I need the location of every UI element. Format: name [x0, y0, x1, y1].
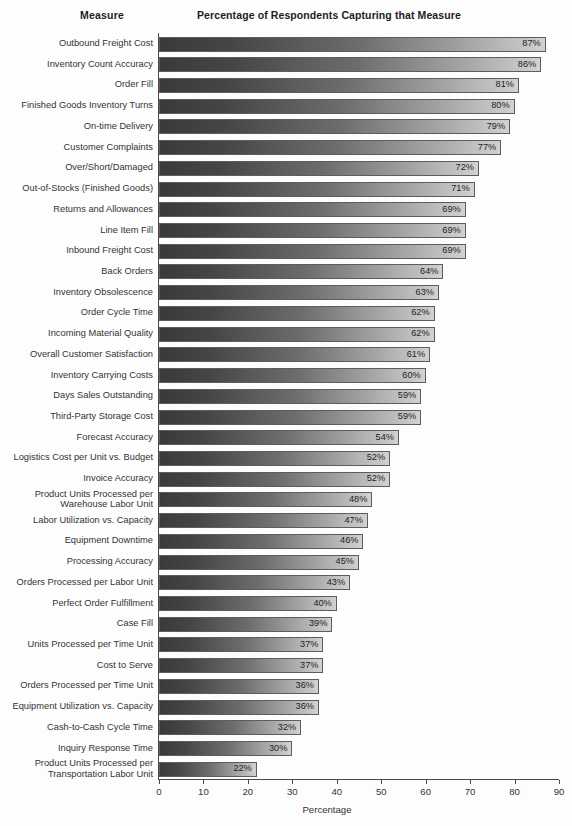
table-row: Cash-to-Cash Cycle Time32%: [0, 717, 572, 739]
x-tick-mark: [559, 780, 560, 784]
x-tick-mark: [381, 780, 382, 784]
table-row: Customer Complaints77%: [0, 137, 572, 159]
chart-page: Measure Percentage of Respondents Captur…: [0, 0, 572, 826]
bar-value-label: 37%: [300, 661, 318, 670]
bar-wrapper: 37%: [159, 637, 323, 652]
table-row: Forecast Accuracy54%: [0, 427, 572, 449]
table-row: Logistics Cost per Unit vs. Budget52%: [0, 447, 572, 469]
bar-value-label: 80%: [491, 102, 509, 111]
table-row: Inquiry Response Time30%: [0, 738, 572, 760]
bar: 81%: [159, 78, 519, 93]
bar-value-label: 52%: [367, 475, 385, 484]
x-tick-label: 80: [509, 786, 520, 797]
bar-value-label: 69%: [442, 226, 460, 235]
bar-wrapper: 52%: [159, 451, 390, 466]
bar-category-label: Incoming Material Quality: [0, 323, 153, 338]
x-tick-label: 0: [156, 786, 161, 797]
column-headers: Measure Percentage of Respondents Captur…: [0, 9, 572, 31]
bar-value-label: 77%: [478, 143, 496, 152]
bar-category-label: Days Sales Outstanding: [0, 385, 153, 400]
bar: 59%: [159, 389, 421, 404]
bar: 77%: [159, 140, 501, 155]
bar-category-label: Inbound Freight Cost: [0, 240, 153, 255]
table-row: Processing Accuracy45%: [0, 551, 572, 573]
bar-category-label: Order Fill: [0, 74, 153, 89]
bar-value-label: 59%: [398, 412, 416, 421]
table-row: Incoming Material Quality62%: [0, 323, 572, 345]
bar-wrapper: 77%: [159, 140, 501, 155]
bar: 30%: [159, 741, 292, 756]
x-axis-label: Percentage: [0, 804, 572, 815]
table-row: Product Units Processed per Transportati…: [0, 758, 572, 780]
bar-category-label: Customer Complaints: [0, 137, 153, 152]
bar-category-label: On-time Delivery: [0, 116, 153, 131]
bar: 86%: [159, 57, 541, 72]
bar: 22%: [159, 762, 257, 777]
percentage-column-header: Percentage of Respondents Capturing that…: [197, 9, 461, 21]
bar: 69%: [159, 223, 466, 238]
table-row: Order Fill81%: [0, 74, 572, 96]
bar: 63%: [159, 285, 439, 300]
bar: 64%: [159, 264, 443, 279]
table-row: Over/Short/Damaged72%: [0, 157, 572, 179]
bar-wrapper: 80%: [159, 99, 515, 114]
bar: 71%: [159, 182, 475, 197]
table-row: Inventory Count Accuracy86%: [0, 54, 572, 76]
bar-value-label: 72%: [456, 164, 474, 173]
bar-wrapper: 30%: [159, 741, 292, 756]
bar-category-label: Cash-to-Cash Cycle Time: [0, 717, 153, 732]
bar-value-label: 22%: [233, 765, 251, 774]
plot-area: Outbound Freight Cost87%Inventory Count …: [0, 33, 572, 781]
bar: 87%: [159, 37, 546, 52]
bar-category-label: Labor Utilization vs. Capacity: [0, 510, 153, 525]
bar: 69%: [159, 202, 466, 217]
bar-wrapper: 52%: [159, 472, 390, 487]
x-axis-label-text: Percentage: [302, 804, 351, 815]
bar-value-label: 37%: [300, 640, 318, 649]
x-tick-mark: [515, 780, 516, 784]
bar-value-label: 36%: [296, 703, 314, 712]
bar: 60%: [159, 368, 426, 383]
bar-wrapper: 59%: [159, 389, 421, 404]
bar-wrapper: 22%: [159, 762, 257, 777]
bar-category-label: Returns and Allowances: [0, 199, 153, 214]
bar: 69%: [159, 244, 466, 259]
x-tick-mark: [203, 780, 204, 784]
bar-category-label: Equipment Downtime: [0, 530, 153, 545]
bar: 72%: [159, 161, 479, 176]
bar-category-label: Invoice Accuracy: [0, 468, 153, 483]
table-row: Units Processed per Time Unit37%: [0, 634, 572, 656]
bar-value-label: 39%: [309, 620, 327, 629]
bar-category-label: Case Fill: [0, 613, 153, 628]
table-row: Case Fill39%: [0, 613, 572, 635]
bar: 52%: [159, 451, 390, 466]
table-row: Product Units Processed per Warehouse La…: [0, 489, 572, 511]
bar-wrapper: 59%: [159, 410, 421, 425]
bar-category-label: Forecast Accuracy: [0, 427, 153, 442]
table-row: Inbound Freight Cost69%: [0, 240, 572, 262]
table-row: Returns and Allowances69%: [0, 199, 572, 221]
bar-value-label: 81%: [496, 81, 514, 90]
bar: 59%: [159, 410, 421, 425]
bar: 62%: [159, 306, 435, 321]
table-row: Third-Party Storage Cost59%: [0, 406, 572, 428]
table-row: Order Cycle Time62%: [0, 302, 572, 324]
x-tick-mark: [292, 780, 293, 784]
bar-wrapper: 47%: [159, 513, 368, 528]
table-row: Cost to Serve37%: [0, 655, 572, 677]
bar-value-label: 40%: [313, 599, 331, 608]
bar-category-label: Inventory Carrying Costs: [0, 365, 153, 380]
bar: 48%: [159, 492, 372, 507]
x-tick-label: 20: [243, 786, 254, 797]
bar: 79%: [159, 119, 510, 134]
table-row: Finished Goods Inventory Turns80%: [0, 95, 572, 117]
table-row: Orders Processed per Labor Unit43%: [0, 572, 572, 594]
x-tick-mark: [159, 780, 160, 784]
bar-wrapper: 87%: [159, 37, 546, 52]
bar-value-label: 79%: [487, 122, 505, 131]
bar-wrapper: 43%: [159, 575, 350, 590]
bar-wrapper: 40%: [159, 596, 337, 611]
bar-wrapper: 60%: [159, 368, 426, 383]
bar-wrapper: 69%: [159, 223, 466, 238]
bar: 32%: [159, 720, 301, 735]
